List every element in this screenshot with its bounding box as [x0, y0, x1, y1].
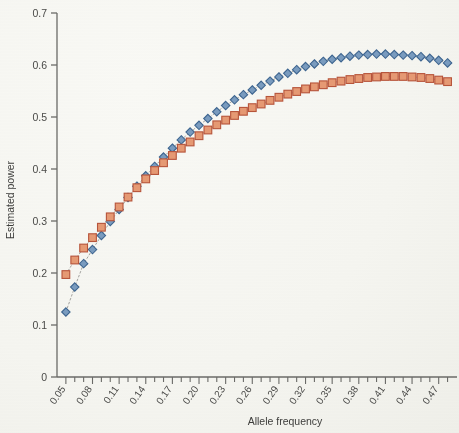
data-point-square	[311, 83, 319, 91]
data-point-diamond	[417, 52, 425, 60]
data-point-square	[160, 159, 168, 167]
data-point-diamond	[408, 51, 416, 59]
data-point-diamond	[434, 56, 442, 64]
x-axis-tick-label: 0.35	[314, 383, 334, 406]
data-point-diamond	[301, 62, 309, 70]
x-axis-tick-label: 0.23	[207, 383, 227, 406]
data-point-square	[417, 74, 425, 82]
data-point-square	[328, 79, 336, 87]
data-point-square	[293, 88, 301, 96]
data-point-square	[319, 81, 327, 89]
y-axis-title: Estimated power	[4, 160, 16, 239]
data-point-square	[390, 73, 398, 81]
data-point-square	[124, 193, 132, 201]
data-point-diamond	[337, 54, 345, 62]
x-axis-tick-label: 0.44	[394, 383, 414, 406]
x-axis-tick-label: 0.20	[180, 383, 200, 406]
data-point-diamond	[355, 51, 363, 59]
data-point-diamond	[97, 231, 105, 239]
data-point-square	[435, 76, 443, 84]
data-point-square	[399, 73, 407, 81]
data-point-diamond	[381, 50, 389, 58]
data-point-diamond	[346, 52, 354, 60]
data-point-square	[142, 175, 150, 183]
y-axis-tick-label: 0.6	[32, 59, 47, 71]
data-point-diamond	[390, 50, 398, 58]
y-axis-tick-label: 0.7	[32, 7, 47, 19]
series-connector-line	[66, 54, 448, 312]
x-axis-tick-label: 0.29	[260, 383, 280, 406]
chart-series-square	[62, 73, 451, 279]
x-axis-tick-label: 0.41	[367, 383, 387, 406]
data-point-diamond	[426, 54, 434, 62]
chart-tick-labels: 00.10.20.30.40.50.60.70.050.080.110.140.…	[32, 7, 440, 406]
y-axis-tick-label: 0.3	[32, 215, 47, 227]
data-point-diamond	[372, 50, 380, 58]
data-point-square	[133, 184, 141, 192]
data-point-square	[444, 78, 452, 86]
data-point-square	[186, 138, 194, 146]
data-point-diamond	[284, 69, 292, 77]
data-point-diamond	[195, 121, 203, 129]
x-axis-tick-label: 0.38	[340, 383, 360, 406]
data-point-diamond	[213, 108, 221, 116]
data-point-square	[177, 144, 185, 152]
data-point-square	[408, 73, 416, 81]
data-point-diamond	[319, 57, 327, 65]
data-point-diamond	[239, 90, 247, 98]
data-point-diamond	[79, 259, 87, 267]
data-point-diamond	[363, 50, 371, 58]
x-axis-tick-label: 0.26	[234, 383, 254, 406]
y-axis-tick-label: 0	[41, 371, 47, 383]
data-point-square	[213, 121, 221, 129]
data-point-diamond	[71, 283, 79, 291]
data-point-diamond	[310, 60, 318, 68]
x-axis-tick-label: 0.08	[74, 383, 94, 406]
data-point-square	[89, 234, 97, 242]
data-point-square	[337, 77, 345, 85]
chart-series-layer	[62, 50, 452, 316]
x-axis-tick-label: 0.14	[127, 383, 147, 406]
data-point-square	[355, 75, 363, 83]
data-point-square	[231, 112, 239, 120]
data-point-square	[115, 203, 123, 211]
data-point-square	[240, 107, 248, 115]
figure-container: 00.10.20.30.40.50.60.70.050.080.110.140.…	[0, 0, 459, 433]
data-point-square	[382, 73, 390, 81]
data-point-square	[195, 132, 203, 140]
x-axis-tick-label: 0.32	[287, 383, 307, 406]
data-point-diamond	[443, 59, 451, 67]
data-point-diamond	[248, 86, 256, 94]
y-axis-tick-label: 0.1	[32, 319, 47, 331]
data-point-square	[98, 223, 106, 231]
data-point-diamond	[221, 101, 229, 109]
data-point-square	[266, 97, 274, 105]
data-point-square	[275, 93, 283, 101]
estimated-power-vs-allele-frequency-chart: 00.10.20.30.40.50.60.70.050.080.110.140.…	[0, 0, 459, 433]
data-point-diamond	[328, 55, 336, 63]
data-point-square	[204, 126, 212, 134]
x-axis-tick-label: 0.05	[47, 383, 67, 406]
data-point-diamond	[292, 65, 300, 73]
x-axis-tick-label: 0.11	[101, 383, 121, 405]
x-axis-tick-label: 0.47	[420, 383, 440, 406]
data-point-square	[80, 244, 88, 252]
data-point-diamond	[399, 51, 407, 59]
chart-axes	[51, 13, 457, 384]
data-point-square	[373, 73, 381, 81]
data-point-square	[106, 213, 114, 221]
y-axis-tick-label: 0.5	[32, 111, 47, 123]
y-axis-tick-label: 0.2	[32, 267, 47, 279]
x-axis-title: Allele frequency	[248, 415, 323, 427]
data-point-square	[257, 100, 265, 108]
y-axis-tick-label: 0.4	[32, 163, 47, 175]
data-point-diamond	[62, 308, 70, 316]
data-point-square	[169, 152, 177, 160]
data-point-square	[222, 116, 230, 124]
series-connector-line	[66, 76, 448, 274]
data-point-square	[284, 90, 292, 98]
data-point-diamond	[257, 81, 265, 89]
data-point-square	[248, 104, 256, 112]
data-point-diamond	[230, 96, 238, 104]
data-point-square	[71, 256, 79, 264]
